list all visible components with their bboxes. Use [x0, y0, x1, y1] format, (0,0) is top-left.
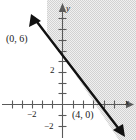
point-label-x-intercept: (4, 0): [72, 110, 94, 120]
ytick-label-2: 2: [50, 66, 55, 75]
axis-label-y: y: [66, 4, 70, 13]
inequality-graph-figure: (0, 6) (4, 0) x y −2 2 −2: [0, 0, 136, 140]
ytick-label-neg2: −2: [44, 122, 54, 131]
axis-label-x: x: [125, 98, 129, 107]
point-label-y-intercept: (0, 6): [6, 34, 28, 44]
graph-canvas: [0, 0, 136, 140]
xtick-label-neg2: −2: [27, 110, 37, 119]
